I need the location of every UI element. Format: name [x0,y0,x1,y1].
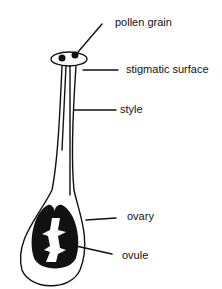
pollen-grain-1 [59,55,66,62]
stigma-outline [51,52,87,66]
label-stigmatic-surface: stigmatic surface [126,63,209,75]
style-canal [62,66,70,195]
pollen-grain-2 [72,52,79,59]
ovary-leader [86,218,116,220]
label-style: style [120,103,143,115]
label-ovule: ovule [122,249,148,261]
carpel-drawing [0,0,222,289]
ovule-leader [76,246,112,254]
label-pollen-grain: pollen grain [115,16,172,28]
carpel-diagram: pollen grain stigmatic surface style ova… [0,0,222,289]
label-ovary: ovary [127,210,154,222]
pollen-grain-leader [78,24,102,52]
